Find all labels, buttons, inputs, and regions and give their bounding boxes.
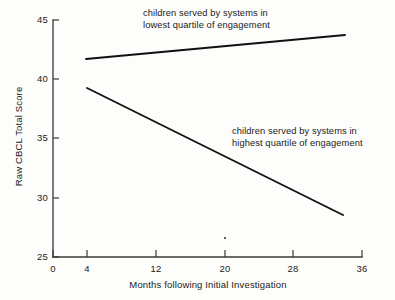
x-axis-ticks [53, 250, 362, 257]
annotation-lowest-quartile: children served by systems in lowest qua… [143, 8, 270, 31]
scan-speck [224, 237, 226, 239]
x-tick-label-0: 0 [42, 263, 64, 274]
x-tick-label-28: 28 [282, 263, 304, 274]
y-tick-label-45: 45 [24, 14, 48, 25]
y-tick-label-40: 40 [24, 73, 48, 84]
annotation-highest-line2: highest quartile of engagement [232, 138, 363, 150]
y-tick-label-30: 30 [24, 192, 48, 203]
y-axis-title: Raw CBCL Total Score [13, 72, 24, 202]
x-axis-title: Months following Initial Investigation [53, 279, 363, 290]
series-line-lowest-quartile [86, 35, 345, 59]
x-tick-label-4: 4 [76, 263, 98, 274]
chart-page: 45 40 35 30 25 0 4 12 20 28 36 Months fo… [0, 0, 395, 300]
annotation-highest-quartile: children served by systems in highest qu… [232, 126, 363, 149]
annotation-lowest-line2: lowest quartile of engagement [143, 20, 270, 32]
annotation-lowest-line1: children served by systems in [143, 8, 270, 20]
series-line-highest-quartile [87, 88, 343, 215]
x-tick-label-12: 12 [145, 263, 167, 274]
y-tick-label-25: 25 [24, 251, 48, 262]
y-tick-label-35: 35 [24, 132, 48, 143]
annotation-highest-line1: children served by systems in [232, 126, 363, 138]
x-tick-label-36: 36 [351, 263, 373, 274]
y-axis-ticks [53, 20, 59, 257]
x-tick-label-20: 20 [214, 263, 236, 274]
chart-plot-area [0, 0, 395, 300]
